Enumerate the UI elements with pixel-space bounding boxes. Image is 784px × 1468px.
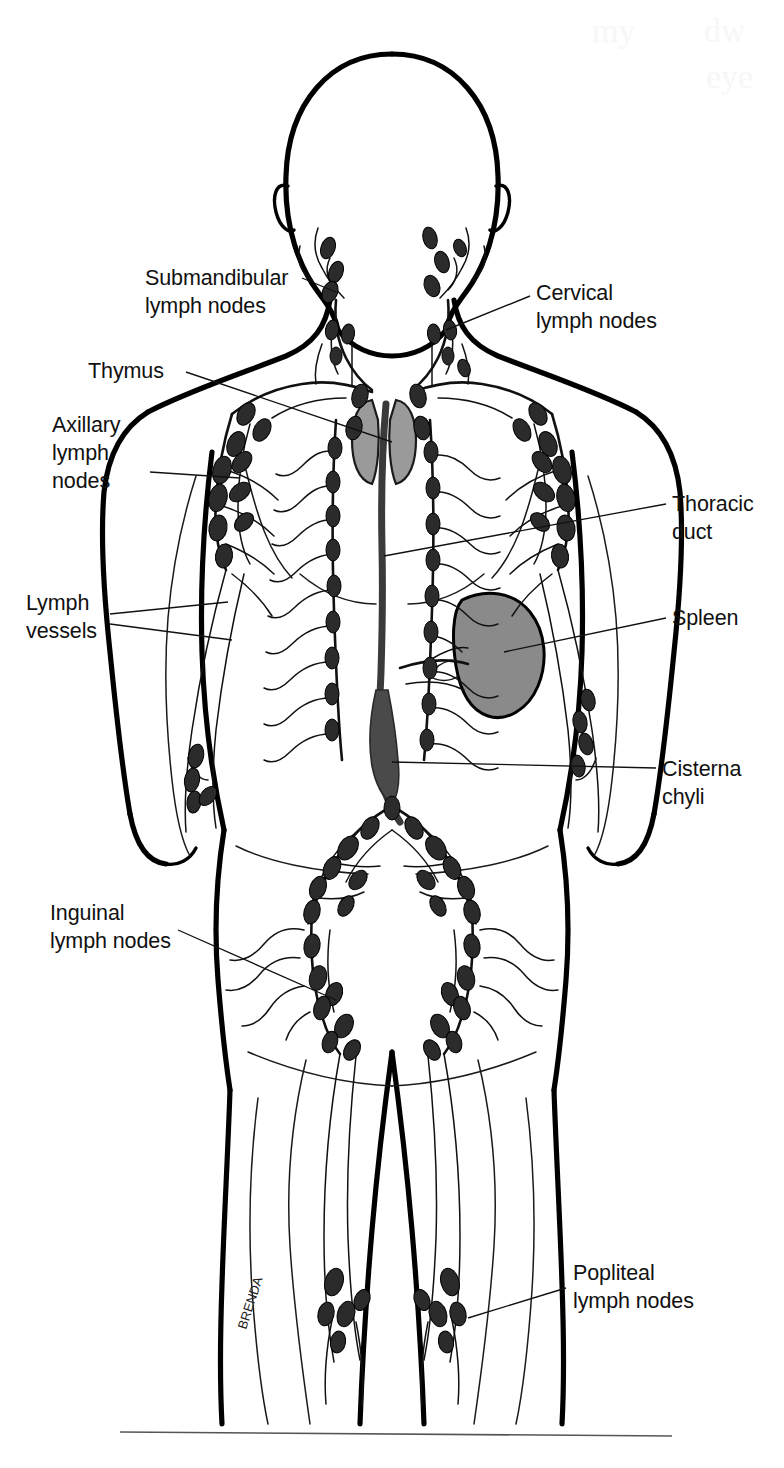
label-cervical-line1: Cervical xyxy=(536,281,613,305)
label-axillary-line1: Axillary xyxy=(52,413,121,437)
label-cisterna-line1: Cisterna xyxy=(662,757,741,781)
label-axillary-line3: nodes xyxy=(52,469,110,493)
label-submandibular-line1: Submandibular xyxy=(145,266,288,290)
label-lymph-vessels-line2: vessels xyxy=(26,619,97,643)
ghost-text-1: my xyxy=(592,12,635,49)
label-thoracic-duct-line1: Thoracic xyxy=(672,492,754,516)
ghost-text-3: eye xyxy=(706,58,753,95)
label-popliteal-line2: lymph nodes xyxy=(573,1289,694,1313)
ghost-text-2: dw xyxy=(704,12,746,49)
label-submandibular-line2: lymph nodes xyxy=(145,294,266,318)
label-thymus: Thymus xyxy=(88,359,164,383)
label-cervical-line2: lymph nodes xyxy=(536,309,657,333)
label-cisterna-line2: chyli xyxy=(662,785,705,809)
label-lymph-vessels-line1: Lymph xyxy=(26,591,89,615)
label-axillary-line2: lymph xyxy=(52,441,109,465)
label-thoracic-duct-line2: duct xyxy=(672,520,712,544)
label-inguinal-line1: Inguinal xyxy=(50,901,125,925)
label-inguinal-line2: lymph nodes xyxy=(50,929,171,953)
label-spleen: Spleen xyxy=(672,606,738,630)
lymphatic-system-figure: my dw eye xyxy=(0,0,784,1468)
label-popliteal-line1: Popliteal xyxy=(573,1261,655,1285)
